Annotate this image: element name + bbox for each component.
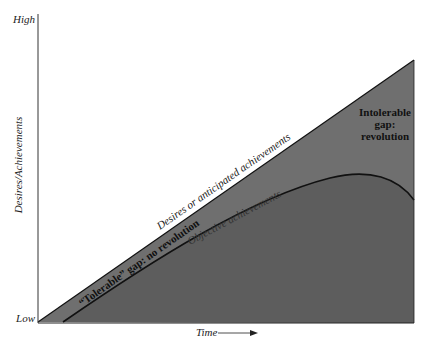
y-high-label: High (12, 13, 36, 25)
time-arrow-icon (250, 330, 258, 336)
j-curve-diagram: High Low Desires/Achievements Time Desir… (0, 0, 427, 348)
intolerable-gap-label-1: Intolerable (359, 106, 411, 118)
x-axis-label: Time (196, 326, 218, 338)
intolerable-gap-label-3: revolution (361, 130, 409, 142)
intolerable-gap-label-2: gap: (375, 118, 396, 130)
y-low-label: Low (15, 312, 36, 324)
y-axis-label: Desires/Achievements (12, 117, 24, 215)
